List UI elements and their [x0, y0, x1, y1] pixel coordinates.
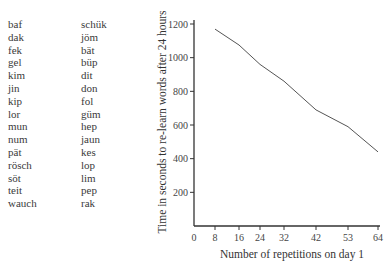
y-tick-label: 800	[173, 86, 188, 97]
y-tick-label: 1000	[168, 52, 188, 63]
x-tick-label: 32	[279, 232, 289, 243]
y-tick-label: 600	[173, 120, 188, 131]
y-axis-ticks: 20040060080010001200	[168, 19, 194, 198]
x-axis-title: Number of repetitions on day 1	[220, 248, 364, 261]
relearning-chart: 20040060080010001200 08162432425364 Time…	[0, 0, 391, 265]
y-tick-label: 1200	[168, 19, 188, 30]
x-tick-label: 24	[255, 232, 265, 243]
x-tick-label: 16	[234, 232, 244, 243]
x-tick-label: 53	[343, 232, 353, 243]
y-tick-label: 400	[173, 153, 188, 164]
x-tick-label: 64	[373, 232, 383, 243]
y-tick-label: 200	[173, 187, 188, 198]
x-axis-ticks: 08162432425364	[192, 226, 384, 243]
y-axis-title: Time in seconds to re-learn words after …	[156, 10, 168, 234]
x-tick-label: 42	[311, 232, 321, 243]
x-tick-label: 0	[192, 232, 197, 243]
x-tick-label: 8	[213, 232, 218, 243]
data-line	[215, 29, 378, 152]
